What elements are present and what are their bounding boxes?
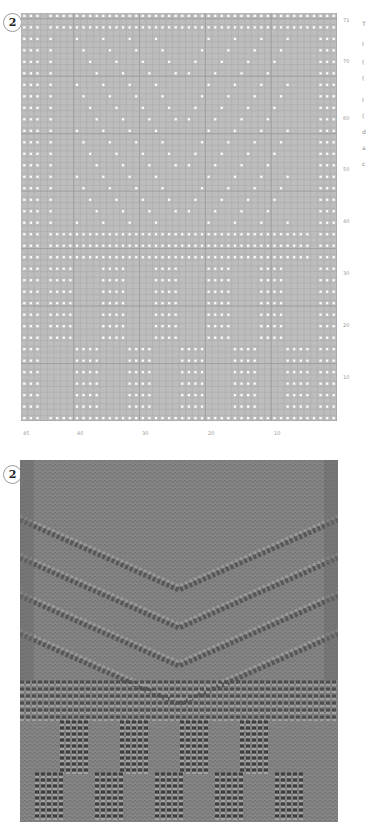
row-label: 70 xyxy=(343,58,349,64)
badge-label: 2 xyxy=(9,16,17,29)
side-char: ( xyxy=(362,112,364,119)
knitted-swatch-photo xyxy=(20,460,338,822)
col-label: 45 xyxy=(23,430,29,436)
side-char: ( xyxy=(362,58,364,65)
side-char: I xyxy=(362,40,364,47)
badge-label: 2 xyxy=(9,468,17,481)
col-label: 10 xyxy=(274,430,280,436)
row-label: 71 xyxy=(343,17,349,23)
row-label: 40 xyxy=(343,218,349,224)
swatch-texture xyxy=(20,460,338,822)
col-label: 20 xyxy=(208,430,214,436)
side-char: I xyxy=(362,96,364,103)
side-char: ( xyxy=(362,74,364,81)
row-label: 60 xyxy=(343,115,349,121)
chart-grid xyxy=(21,13,337,421)
side-char: c xyxy=(362,160,365,167)
side-char: a xyxy=(362,144,366,151)
row-label: 30 xyxy=(343,270,349,276)
chart-number-badge: 2 xyxy=(3,13,22,32)
col-label: 30 xyxy=(142,430,148,436)
side-char: d xyxy=(362,128,366,135)
row-label: 10 xyxy=(343,374,349,380)
col-label: 40 xyxy=(77,430,83,436)
knitting-chart xyxy=(21,13,337,421)
side-char: T xyxy=(362,20,366,27)
row-label: 50 xyxy=(343,166,349,172)
row-label: 20 xyxy=(343,322,349,328)
